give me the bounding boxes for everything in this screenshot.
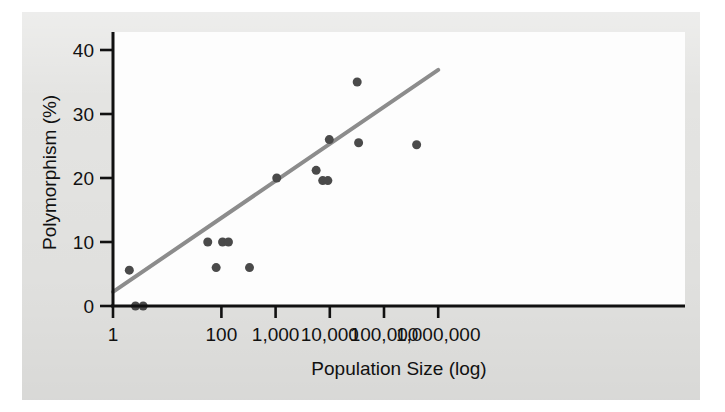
x-axis-tick-label: 1	[108, 324, 119, 345]
data-point	[312, 166, 321, 175]
x-axis-ticks-group: 11001,00010,000100,0001,000,000	[108, 306, 481, 345]
data-point	[212, 263, 221, 272]
data-point	[353, 78, 362, 87]
figure-container: 010203040 11001,00010,000100,0001,000,00…	[0, 0, 725, 412]
data-point	[323, 176, 332, 185]
data-point	[412, 140, 421, 149]
x-axis-tick-label: 1,000,000	[396, 324, 481, 345]
x-axis-tick-label: 100	[206, 324, 238, 345]
y-axis-ticks-group: 010203040	[73, 40, 113, 317]
x-axis-tick-label: 1,000	[252, 324, 300, 345]
scatter-chart: 010203040 11001,00010,000100,0001,000,00…	[0, 0, 725, 412]
y-axis-title: Polymorphism (%)	[39, 95, 60, 250]
x-axis-title: Population Size (log)	[311, 358, 486, 379]
data-point	[125, 266, 134, 275]
y-axis-tick-label: 10	[73, 232, 94, 253]
data-point	[272, 174, 281, 183]
y-axis-tick-label: 0	[83, 296, 94, 317]
data-point	[203, 238, 212, 247]
data-point	[354, 138, 363, 147]
y-axis-tick-label: 30	[73, 104, 94, 125]
y-axis-tick-label: 40	[73, 40, 94, 61]
data-point	[245, 263, 254, 272]
data-point	[224, 238, 233, 247]
data-point	[325, 135, 334, 144]
y-axis-tick-label: 20	[73, 168, 94, 189]
